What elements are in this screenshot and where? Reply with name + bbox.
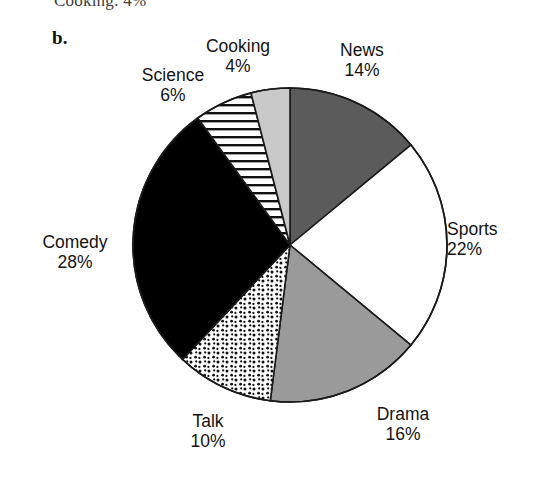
pie-label-drama: Drama 16%	[353, 404, 453, 445]
pie-label-news-name: News	[317, 40, 407, 60]
pie-label-cooking-name: Cooking	[183, 36, 293, 56]
pie-label-news: News 14%	[317, 40, 407, 81]
pie-label-talk-name: Talk	[168, 411, 248, 431]
pie-label-comedy-name: Comedy	[20, 232, 130, 252]
pie-label-drama-name: Drama	[353, 404, 453, 424]
pie-label-comedy-value: 28%	[20, 252, 130, 272]
pie-label-comedy: Comedy 28%	[20, 232, 130, 273]
pie-label-talk-value: 10%	[168, 431, 248, 451]
pie-label-science: Science 6%	[123, 65, 223, 106]
pie-chart: Cooking 4% News 14% Sports 22% Drama 16%…	[0, 0, 550, 484]
pie-label-sports-value: 22%	[447, 239, 537, 259]
pie-label-drama-value: 16%	[353, 424, 453, 444]
pie-label-sports: Sports 22%	[447, 219, 537, 260]
pie-slices-group	[133, 88, 447, 402]
pie-label-news-value: 14%	[317, 60, 407, 80]
pie-label-science-value: 6%	[123, 85, 223, 105]
pie-label-talk: Talk 10%	[168, 411, 248, 452]
pie-label-science-name: Science	[123, 65, 223, 85]
pie-label-sports-name: Sports	[447, 219, 537, 239]
